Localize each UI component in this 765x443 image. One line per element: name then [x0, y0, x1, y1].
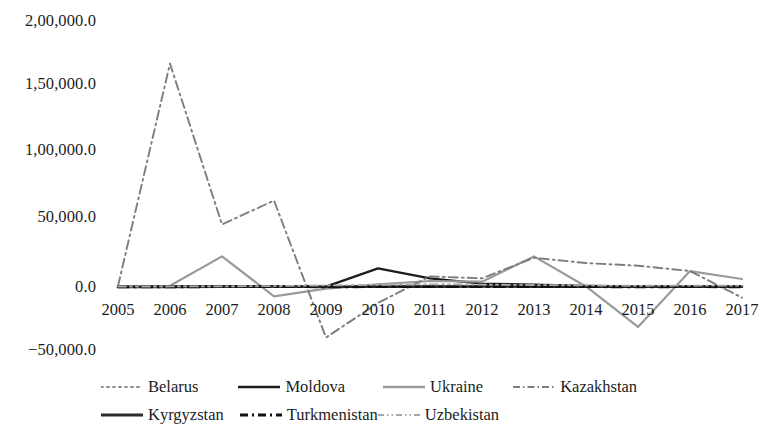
x-axis-tick: 2010	[362, 300, 395, 320]
series-line-kazakhstan	[118, 64, 742, 338]
legend-swatch-belarus	[101, 381, 143, 393]
legend-item-uzbekistan: Uzbekistan	[378, 404, 499, 426]
legend-label-belarus: Belarus	[148, 376, 198, 398]
legend-label-kazakhstan: Kazakhstan	[560, 376, 637, 398]
x-axis-tick: 2015	[622, 300, 655, 320]
x-axis-tick: 2011	[414, 300, 446, 320]
x-axis-tick: 2014	[570, 300, 603, 320]
x-axis-tick: 2007	[206, 300, 239, 320]
legend-swatch-turkmenistan	[240, 409, 282, 421]
legend-item-turkmenistan: Turkmenistan	[240, 404, 378, 426]
x-axis-tick: 2006	[154, 300, 187, 320]
chart-legend: Belarus Moldova Ukraine Kazakhstan Kyrgy…	[0, 372, 765, 443]
legend-label-moldova: Moldova	[285, 376, 345, 398]
x-axis-tick: 2017	[726, 300, 759, 320]
legend-item-kyrgyzstan: Kyrgyzstan	[101, 404, 224, 426]
x-axis-tick: 2008	[258, 300, 291, 320]
legend-swatch-kyrgyzstan	[101, 409, 143, 421]
line-chart: 2,00,000.0 1,50,000.0 1,00,000.0 50,000.…	[0, 0, 765, 443]
legend-row-1: Belarus Moldova Ukraine Kazakhstan	[0, 372, 765, 402]
x-axis-tick: 2013	[518, 300, 551, 320]
legend-swatch-ukraine	[383, 381, 425, 393]
legend-swatch-moldova	[238, 381, 280, 393]
legend-swatch-kazakhstan	[513, 381, 555, 393]
legend-item-kazakhstan: Kazakhstan	[513, 376, 637, 398]
legend-item-belarus: Belarus	[101, 376, 198, 398]
legend-label-kyrgyzstan: Kyrgyzstan	[148, 404, 224, 426]
legend-item-ukraine: Ukraine	[383, 376, 483, 398]
x-axis-tick: 2012	[466, 300, 499, 320]
legend-swatch-uzbekistan	[378, 409, 420, 421]
legend-item-moldova: Moldova	[238, 376, 345, 398]
x-axis-tick: 2016	[674, 300, 707, 320]
x-axis-tick: 2009	[310, 300, 343, 320]
legend-label-ukraine: Ukraine	[430, 376, 483, 398]
legend-label-uzbekistan: Uzbekistan	[425, 404, 499, 426]
x-axis-tick: 2005	[102, 300, 135, 320]
legend-label-turkmenistan: Turkmenistan	[287, 404, 378, 426]
x-axis: 2005200620072008200920102011201220132014…	[0, 300, 765, 326]
legend-row-2: Kyrgyzstan Turkmenistan Uzbekistan	[0, 400, 765, 430]
